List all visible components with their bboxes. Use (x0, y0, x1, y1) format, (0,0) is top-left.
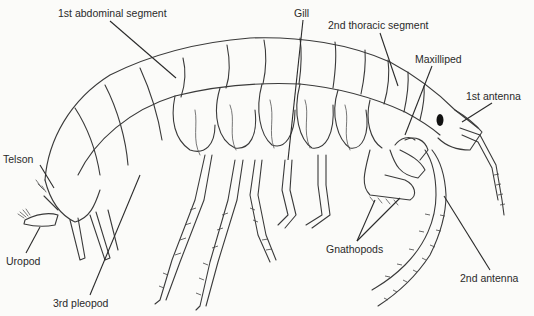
label-uropod: Uropod (6, 255, 40, 267)
leader-maxilliped (405, 66, 432, 135)
label-first-antenna: 1st antenna (466, 90, 521, 102)
leader-gnathopod-2 (357, 198, 400, 241)
label-gnathopods: Gnathopods (326, 243, 383, 255)
label-gill: Gill (294, 7, 309, 19)
leader-first-antenna (462, 103, 492, 122)
leader-uropod (26, 227, 40, 253)
walking-legs (155, 155, 330, 310)
amphipod-diagram: 1st abdominal segment Gill 2nd thoracic … (0, 0, 534, 316)
tail-region (18, 180, 118, 260)
leader-gill (288, 20, 303, 160)
leader-gnathopod-1 (357, 200, 375, 241)
label-telson: Telson (3, 153, 33, 165)
leader-third-pleopod (90, 175, 140, 295)
label-second-thoracic-segment: 2nd thoracic segment (328, 19, 428, 31)
label-maxilliped: Maxilliped (415, 53, 462, 65)
label-first-abdominal-segment: 1st abdominal segment (58, 7, 167, 19)
leader-telson (40, 165, 54, 188)
amphipod-illustration (0, 0, 534, 316)
gnathopods (364, 138, 428, 205)
label-second-antenna: 2nd antenna (460, 272, 518, 284)
leader-first-abdominal-segment (110, 21, 176, 78)
leader-second-antenna (444, 196, 490, 270)
label-third-pleopod: 3rd pleopod (53, 297, 108, 309)
